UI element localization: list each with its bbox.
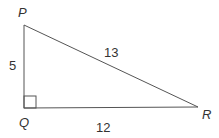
side-label-pq: 5 — [9, 59, 16, 72]
vertex-label-r: R — [202, 108, 211, 121]
right-angle-marker — [24, 96, 36, 108]
vertex-label-q: Q — [19, 116, 29, 129]
side-label-qr: 12 — [96, 121, 110, 134]
side-label-pr: 13 — [104, 46, 118, 59]
triangle-pqr — [24, 25, 198, 108]
vertex-label-p: P — [18, 6, 27, 19]
triangle-figure — [0, 0, 219, 138]
